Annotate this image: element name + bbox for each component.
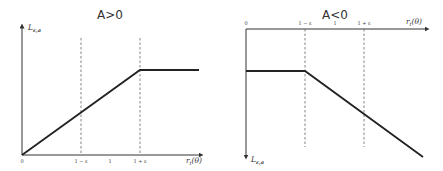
x-axis-label: rt(θ) bbox=[406, 17, 422, 27]
diagram-title: A>0 bbox=[97, 8, 123, 22]
tick-1-minus-eps: 1 − ε bbox=[298, 20, 312, 26]
tick-1: 1 bbox=[108, 158, 111, 164]
tick-1: 1 bbox=[333, 20, 336, 26]
tick-1-plus-eps: 1 + ε bbox=[357, 20, 371, 26]
tick-0: 0 bbox=[20, 158, 23, 164]
tick-1-minus-eps: 1 − ε bbox=[74, 158, 88, 164]
tick-1-plus-eps: 1 + ε bbox=[133, 158, 147, 164]
tick-0: 0 bbox=[244, 20, 247, 26]
y-axis-label: Lε,a bbox=[250, 155, 264, 165]
loss-curve bbox=[22, 70, 199, 155]
diagram-a-negative: A<0 rt(θ) Lε,a 0 1 − ε 1 1 + ε bbox=[244, 8, 427, 165]
diagram-a-positive: A>0 Lε,a rt(θ) 0 1 − ε 1 1 + ε bbox=[20, 8, 202, 166]
loss-curve bbox=[246, 71, 423, 157]
diagram-canvas: A>0 Lε,a rt(θ) 0 1 − ε 1 1 + ε A<0 rt(θ)… bbox=[0, 0, 443, 171]
y-axis-label: Lε,a bbox=[27, 23, 41, 33]
x-axis-label: rt(θ) bbox=[186, 156, 202, 166]
